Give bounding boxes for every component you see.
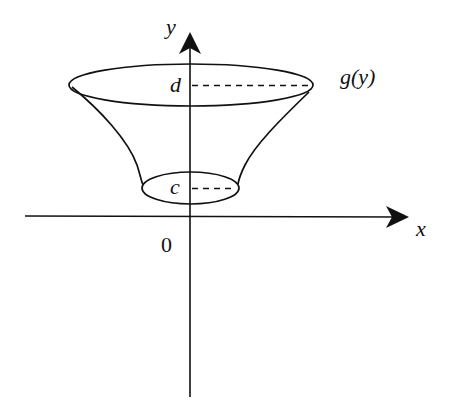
x-axis bbox=[25, 216, 398, 217]
top-ellipse bbox=[69, 64, 313, 106]
level-d-label: d bbox=[170, 72, 182, 97]
y-axis-label: y bbox=[164, 14, 176, 39]
right-profile-curve bbox=[238, 92, 309, 184]
x-axis-label: x bbox=[415, 216, 426, 241]
solid-of-revolution-figure: y x 0 d c g(y) bbox=[0, 0, 454, 418]
level-c-label: c bbox=[170, 174, 180, 199]
left-profile-curve bbox=[72, 87, 143, 185]
diagram-canvas: y x 0 d c g(y) bbox=[0, 0, 454, 418]
curve-label: g(y) bbox=[340, 64, 375, 89]
origin-label: 0 bbox=[161, 232, 172, 257]
